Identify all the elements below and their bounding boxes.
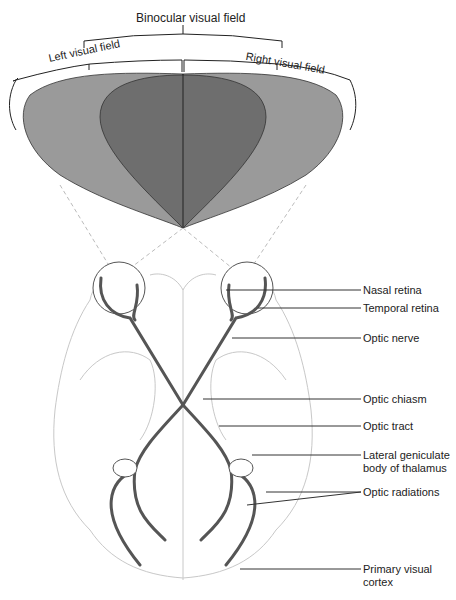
visual-pathway-diagram (0, 0, 456, 600)
brain-outline (54, 271, 312, 580)
visual-field-lobes (23, 73, 343, 228)
label-binocular-visual-field: Binocular visual field (136, 12, 245, 25)
label-lgn: Lateral geniculate (363, 449, 450, 462)
label-primary-visual-cortex: Primary visual (363, 563, 432, 576)
label-temporal-retina: Temporal retina (363, 302, 439, 315)
label-optic-radiations: Optic radiations (363, 486, 439, 499)
label-primary-visual-cortex-line2: cortex (363, 576, 393, 589)
label-optic-chiasm: Optic chiasm (363, 393, 427, 406)
label-lgn-line2: body of thalamus (363, 462, 447, 475)
label-optic-tract: Optic tract (363, 420, 413, 433)
label-optic-nerve: Optic nerve (363, 332, 419, 345)
label-nasal-retina: Nasal retina (363, 284, 422, 297)
